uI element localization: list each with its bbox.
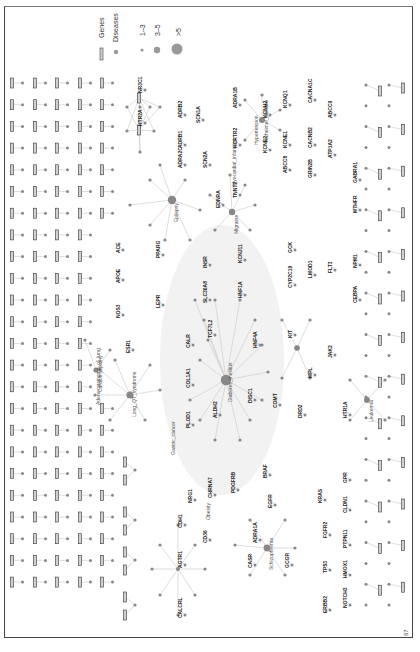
disease-label: Leukemia [368,400,374,422]
disease-node [274,504,277,507]
gene-label: INSR [202,256,208,268]
disease-node [158,593,161,596]
gene-node [402,499,405,509]
disease-node [21,407,24,410]
disease-node [21,125,24,128]
disease-node [349,509,352,512]
gene-node [402,333,405,343]
disease-node [21,103,24,106]
disease-node [184,564,187,567]
disease-node [289,144,292,147]
gene-node [124,475,127,485]
disease-node [294,334,297,337]
gene-label: BRAF [262,464,268,478]
disease-node [138,150,141,153]
gene-node [34,121,37,131]
disease-node [111,82,114,85]
gene-node [11,208,14,218]
gene-node [56,469,59,479]
gene-node [79,382,82,392]
disease-node [289,104,292,107]
gene-node [101,577,104,587]
edge [160,545,178,569]
gene-node [11,143,14,153]
disease-node [21,82,24,85]
disease-node [111,190,114,193]
disease-node [365,479,368,482]
gene-label: EDNRA [215,190,221,208]
gene-label: PLOD1 [185,411,191,428]
disease-node [111,450,114,453]
gene-label: CYP2C19 [287,266,293,288]
disease-node [66,320,69,323]
disease-node [214,334,217,337]
disease-node [248,518,251,521]
disease-node [359,209,362,212]
gene-label: JAK2 [327,345,333,358]
disease-node [314,174,317,177]
disease-node [66,190,69,193]
disease-node [388,416,391,419]
disease-node [148,178,151,181]
gene-node [402,541,405,551]
disease-node [21,168,24,171]
gene-node [11,230,14,240]
disease-node [314,274,317,277]
edge [367,335,380,341]
gene-node [34,425,37,435]
disease-node [21,494,24,497]
edge [127,130,139,131]
disease-node [66,364,69,367]
disease-node [324,499,327,502]
gene-node [11,252,14,262]
gene-node [56,187,59,197]
disease-node [239,104,242,107]
gene-label: COMT [272,393,278,408]
disease-node [198,358,201,361]
disease-node [21,450,24,453]
disease-node [244,259,247,262]
gene-node [34,208,37,218]
gene-label: EGFR [267,494,273,508]
disease-node [388,458,391,461]
disease-node [244,294,247,297]
gene-node [101,100,104,110]
disease-node [66,299,69,302]
disease-node [388,604,391,607]
gene-node [124,507,127,517]
gene-node [11,165,14,175]
disease-node [198,418,201,421]
disease-node [66,472,69,475]
disease-node [294,249,297,252]
gene-node [101,165,104,175]
disease-node [132,349,135,352]
disease-node [239,194,242,197]
legend-genes-label: Genes [98,17,105,38]
gene-node [402,125,405,135]
disease-node [365,208,368,211]
disease-node [111,212,114,215]
gene-node [56,338,59,348]
gene-node [402,249,405,259]
disease-node [66,450,69,453]
gene-node [34,555,37,565]
disease-node [193,543,196,546]
gene-node [79,490,82,500]
disease-node [365,146,368,149]
disease-node [44,190,47,193]
disease-node [239,144,242,147]
edge [389,168,403,171]
disease-node [66,581,69,584]
disease-node [383,418,386,421]
disease-node [208,193,211,196]
gene-node [379,585,382,595]
disease-node [152,129,155,132]
central-cluster-halo [160,225,284,495]
disease-node [133,518,136,521]
gene-node [79,208,82,218]
disease-node [192,344,195,347]
disease-label: Migraine [233,215,239,234]
gene-label: CASR [247,553,253,568]
gene-label: ERBB2 [322,596,328,613]
disease-node [293,546,296,549]
